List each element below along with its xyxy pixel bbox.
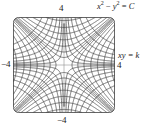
plot-canvas — [0, 0, 148, 129]
hyperbola-orthogonal-trajectories-figure: 4 −4 −4 4 x2 − y2 = C xy = k — [0, 0, 148, 129]
axis-tick-label-left: −4 — [1, 60, 11, 69]
equation-label-x2-minus-y2: x2 − y2 = C — [97, 2, 134, 11]
axis-tick-label-right: 4 — [117, 61, 122, 70]
equation-label-xy-equals-k: xy = k — [118, 51, 139, 60]
eq-c-equals: = — [120, 1, 129, 11]
axis-tick-label-bottom: −4 — [57, 116, 67, 125]
eq-c-minus: − — [104, 1, 113, 11]
eq-c-constant: C — [129, 1, 135, 11]
axis-tick-label-top: 4 — [59, 4, 64, 13]
